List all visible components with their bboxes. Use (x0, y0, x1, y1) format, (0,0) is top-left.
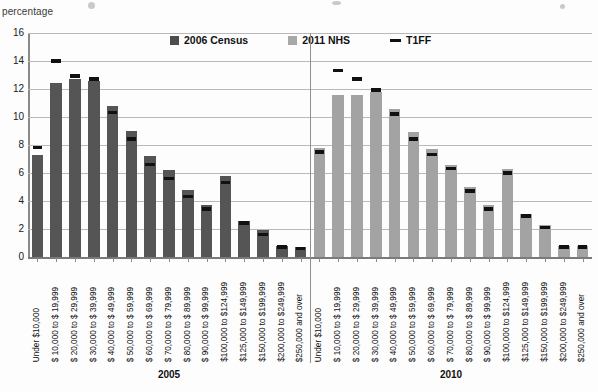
category-label: $ 40,000 to $ 49,999 (385, 258, 404, 362)
bar (502, 169, 514, 257)
category-label-text: $ 30,000 to $ 39,999 (90, 287, 98, 362)
category-label-text: $ 90,000 to $ 99,999 (484, 287, 492, 362)
x-tick (301, 258, 302, 262)
bar-fill (144, 156, 156, 257)
category-label-text: $ 40,000 to $ 49,999 (390, 287, 398, 362)
y-tick-label: 14 (13, 55, 24, 66)
bar-fill (483, 205, 495, 257)
bar (370, 92, 382, 257)
category-label: Under $10,000 (310, 258, 329, 362)
t1ff-marker (221, 181, 231, 185)
category-label: $ 90,000 to $ 99,999 (197, 258, 216, 362)
group-label-2005: 2005 (28, 369, 310, 380)
category-label-text: $150,000 to $199,999 (541, 282, 549, 362)
category-label: $200,000 to $249,999 (554, 258, 573, 362)
bar-fill (69, 79, 81, 257)
bar (483, 205, 495, 257)
bar (144, 156, 156, 257)
bar (389, 109, 401, 257)
y-tick-label: 6 (18, 167, 24, 178)
bar-fill (539, 225, 551, 257)
y-tick-label: 10 (13, 111, 24, 122)
category-label-text: $ 40,000 to $ 49,999 (108, 287, 116, 362)
category-label: $125,000 to $149,999 (235, 258, 254, 362)
t1ff-marker (427, 153, 437, 157)
category-label-text: $ 20,000 to $ 29,999 (71, 287, 79, 362)
y-tick-label: 8 (18, 139, 24, 150)
t1ff-marker (145, 163, 155, 167)
bar-fill (88, 81, 100, 257)
category-label-text: $ 10,000 to $ 19,999 (52, 287, 60, 362)
category-label-text: $ 90,000 to $ 99,999 (202, 287, 210, 362)
y-tick-label: 16 (13, 27, 24, 38)
scan-artifact (560, 4, 565, 9)
t1ff-marker (315, 150, 325, 154)
t1ff-marker (51, 59, 61, 63)
x-tick (37, 258, 38, 262)
category-label-text: $100,000 to $124,999 (221, 282, 229, 362)
category-label: $ 30,000 to $ 39,999 (366, 258, 385, 362)
t1ff-marker (371, 88, 381, 92)
category-label: $250,000 and over (573, 258, 592, 362)
x-tick (507, 258, 508, 262)
x-tick (470, 258, 471, 262)
category-label-text: $ 70,000 to $ 79,999 (165, 287, 173, 362)
bar (539, 225, 551, 257)
category-label-text: $ 80,000 to $ 89,999 (184, 287, 192, 362)
chart-canvas: percentage 0246810121416 2006 Census 201… (0, 0, 598, 392)
category-label: Under $10,000 (28, 258, 47, 362)
category-label: $250,000 and over (291, 258, 310, 362)
bar (426, 149, 438, 257)
t1ff-marker (89, 77, 99, 81)
legend-swatch-icon (288, 36, 297, 45)
bar-fill (107, 106, 119, 257)
bar-fill (408, 132, 420, 257)
category-label: $100,000 to $124,999 (498, 258, 517, 362)
legend-label: T1FF (406, 34, 431, 46)
bar (332, 95, 344, 257)
y-tick-label: 4 (18, 195, 24, 206)
category-label-text: $250,000 and over (578, 294, 586, 362)
category-label-text: $250,000 and over (296, 294, 304, 362)
bar (408, 132, 420, 257)
category-label: $ 50,000 to $ 59,999 (404, 258, 423, 362)
t1ff-marker (503, 171, 513, 175)
x-tick (169, 258, 170, 262)
legend-line-icon (390, 39, 401, 42)
x-tick (319, 258, 320, 262)
category-label-text: $125,000 to $149,999 (240, 282, 248, 362)
t1ff-marker (108, 111, 118, 115)
category-label: $125,000 to $149,999 (517, 258, 536, 362)
t1ff-marker (277, 245, 287, 249)
t1ff-marker (202, 207, 212, 211)
bar (32, 155, 44, 257)
x-tick (376, 258, 377, 262)
category-label: $ 20,000 to $ 29,999 (66, 258, 85, 362)
bar-fill (314, 148, 326, 257)
bar (314, 148, 326, 257)
t1ff-marker (484, 207, 494, 211)
bar-fill (32, 155, 44, 257)
t1ff-marker (540, 226, 550, 230)
x-tick (432, 258, 433, 262)
category-label-text: Under $10,000 (33, 308, 41, 362)
x-tick (244, 258, 245, 262)
bar-fill (502, 169, 514, 257)
bar-fill (520, 214, 532, 257)
t1ff-marker (239, 221, 249, 225)
t1ff-marker (578, 245, 588, 249)
x-tick (263, 258, 264, 262)
legend-label: 2006 Census (184, 34, 248, 46)
category-label: $ 20,000 to $ 29,999 (348, 258, 367, 362)
bar (220, 176, 232, 257)
t1ff-marker (446, 167, 456, 171)
bar (201, 205, 213, 257)
t1ff-marker (390, 112, 400, 116)
bar-fill (50, 83, 62, 257)
bar-fill (182, 190, 194, 257)
bar-fill (220, 176, 232, 257)
bar-fill (332, 95, 344, 257)
legend-swatch-icon (170, 36, 179, 45)
x-tick (526, 258, 527, 262)
bar-fill (370, 92, 382, 257)
